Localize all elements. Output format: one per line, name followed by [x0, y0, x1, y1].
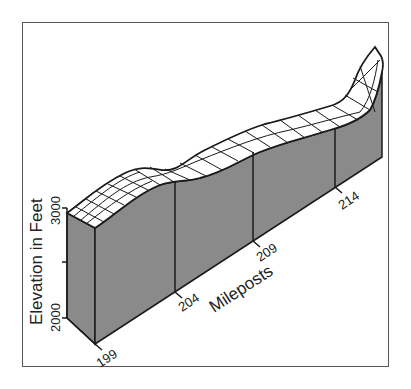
elevation-chart: 3000 2000 Elevation in Feet 199 204 209 …	[0, 0, 411, 389]
x-tick-209: 209	[253, 240, 279, 264]
x-axis-label: Mileposts	[206, 261, 277, 316]
y-tick-3000: 3000	[48, 196, 63, 225]
x-tick-199: 199	[93, 346, 119, 370]
x-tick-204: 204	[175, 290, 201, 314]
y-tick-2000: 2000	[48, 303, 63, 332]
y-axis-label: Elevation in Feet	[27, 198, 46, 325]
left-end-face	[67, 213, 95, 344]
